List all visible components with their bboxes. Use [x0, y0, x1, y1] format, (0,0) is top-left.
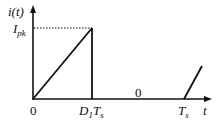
interval-zero-label: 0 — [135, 86, 142, 99]
x-tick-ts-sub: s — [185, 110, 189, 120]
x-tick-d1ts: D1Ts — [79, 104, 104, 122]
next-cycle-ramp — [184, 66, 202, 99]
y-axis-label: i(t) — [8, 5, 24, 18]
peak-label: Ipk — [13, 22, 26, 40]
x-axis-arrow-icon — [204, 96, 212, 102]
x-tick-d1ts-main: D — [79, 103, 88, 118]
x-tick-origin: 0 — [30, 104, 37, 117]
x-axis-label: t — [203, 104, 207, 117]
x-tick-ts: Ts — [178, 104, 189, 122]
peak-label-sub: pk — [17, 28, 26, 38]
rising-ramp — [33, 28, 92, 99]
y-axis-arrow-icon — [30, 5, 36, 13]
current-waveform-diagram: i(t) Ipk 0 D1Ts 0 Ts t — [0, 0, 219, 123]
x-tick-d1ts-suffix-sub: s — [100, 110, 104, 120]
